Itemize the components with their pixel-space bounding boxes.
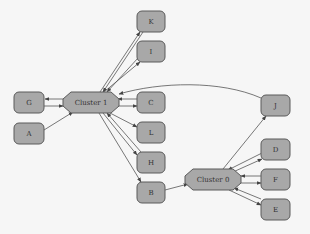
node-h[interactable]: H xyxy=(137,152,165,173)
node-b-label: B xyxy=(148,189,153,197)
edge-cluster1-b xyxy=(99,113,141,182)
edge-a-cluster1 xyxy=(44,112,73,130)
node-a-label: A xyxy=(25,130,32,138)
node-c[interactable]: C xyxy=(137,92,165,113)
node-a[interactable]: A xyxy=(14,123,44,144)
node-f[interactable]: F xyxy=(261,169,290,190)
edge-k-cluster1 xyxy=(103,32,143,92)
edge-cluster1-l xyxy=(110,113,137,127)
node-i[interactable]: I xyxy=(137,41,165,62)
cluster-0-node[interactable]: Cluster 0 xyxy=(185,169,241,190)
edge-e-cluster0 xyxy=(234,188,261,199)
node-l[interactable]: L xyxy=(137,122,165,143)
node-j[interactable]: J xyxy=(261,95,290,116)
node-f-label: F xyxy=(273,176,278,184)
node-b[interactable]: B xyxy=(137,182,165,203)
node-g[interactable]: G xyxy=(14,92,44,113)
edge-h-cluster1 xyxy=(107,113,141,152)
node-e[interactable]: E xyxy=(261,199,290,220)
edge-b-cluster0 xyxy=(165,184,188,190)
node-k[interactable]: K xyxy=(137,11,165,32)
diagram-canvas: Cluster 1 Cluster 0 K I G A C L H B J D … xyxy=(0,0,310,234)
graph-svg: Cluster 1 Cluster 0 K I G A C L H B J D … xyxy=(0,0,310,234)
node-e-label: E xyxy=(273,206,278,214)
node-l-label: L xyxy=(149,129,154,137)
edge-cluster1-h xyxy=(103,113,137,155)
node-i-label: I xyxy=(150,48,153,56)
edge-cluster0-j xyxy=(223,116,266,169)
edge-cluster1-i xyxy=(104,62,140,92)
nodes: K I G A C L H B J D F E xyxy=(14,11,290,220)
node-d-label: D xyxy=(273,146,279,154)
cluster-1-label: Cluster 1 xyxy=(75,99,108,107)
node-c-label: C xyxy=(148,99,153,107)
cluster-1-node[interactable]: Cluster 1 xyxy=(63,92,119,113)
node-k-label: K xyxy=(148,18,154,26)
cluster-0-label: Cluster 0 xyxy=(197,176,230,184)
node-d[interactable]: D xyxy=(261,139,290,160)
node-g-label: G xyxy=(26,99,32,107)
node-h-label: H xyxy=(148,159,154,167)
node-j-label: J xyxy=(273,102,277,110)
